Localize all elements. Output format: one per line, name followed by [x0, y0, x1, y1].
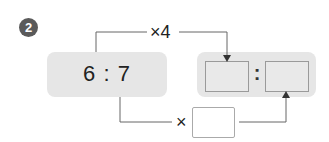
- multiplier-answer-input[interactable]: [192, 107, 235, 138]
- bottom-multiply-sign: ×: [176, 112, 187, 133]
- top-multiply-label: ×4: [150, 22, 171, 43]
